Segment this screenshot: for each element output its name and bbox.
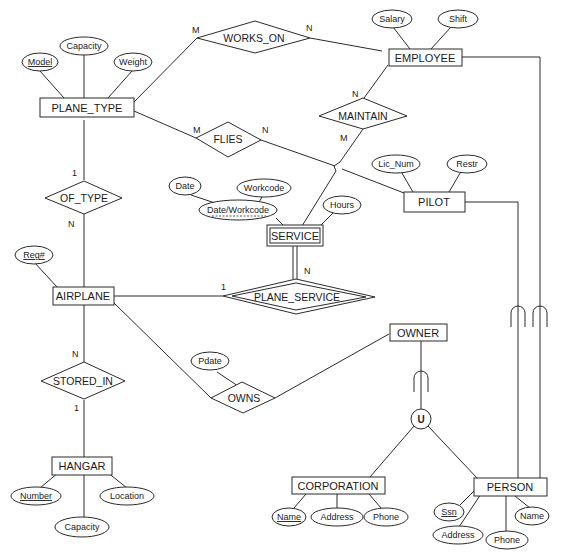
cardinality-label: M [340, 133, 348, 143]
entity-hangar[interactable]: HANGAR [52, 457, 112, 475]
attribute-label: Workcode [244, 183, 284, 193]
attribute-restr[interactable]: Restr [447, 155, 487, 173]
relationship-label: OWNS [228, 392, 261, 404]
relationship-owns[interactable]: OWNS [211, 382, 275, 413]
attribute-hours[interactable]: Hours [323, 196, 361, 214]
attribute-label: Restr [456, 159, 478, 169]
attribute-label: Reg# [23, 250, 45, 260]
attribute-label: Phone [494, 535, 520, 545]
er-diagram: PLANE_TYPE EMPLOYEE PILOT SERVICE AIRPLA… [0, 0, 561, 557]
entity-label: PILOT [418, 196, 450, 208]
cardinality-label: M [193, 125, 201, 135]
entity-label: AIRPLANE [56, 290, 110, 302]
entity-airplane[interactable]: AIRPLANE [53, 287, 114, 305]
attribute-label: Phone [373, 512, 399, 522]
attribute-label: Weight [119, 57, 147, 67]
attribute-person-phone[interactable]: Phone [486, 531, 528, 549]
entity-label: CORPORATION [297, 480, 378, 492]
relationship-label: STORED_IN [53, 375, 113, 387]
relationship-flies[interactable]: FLIES [196, 122, 261, 157]
union-category-circle[interactable]: U [411, 409, 431, 429]
attribute-label: Number [20, 491, 52, 501]
entity-label: HANGAR [58, 460, 105, 472]
union-label: U [417, 414, 424, 425]
attribute-label: Address [441, 530, 475, 540]
attribute-shift[interactable]: Shift [438, 10, 478, 28]
attribute-date-workcode-partial-key[interactable]: Date/Workcode [199, 200, 277, 220]
relationship-plane-service-identifying[interactable]: PLANE_SERVICE [223, 279, 375, 314]
attribute-hangar-capacity[interactable]: Capacity [55, 517, 109, 537]
cardinality-label: M [192, 25, 200, 35]
entity-label: SERVICE [271, 230, 319, 242]
relationship-works-on[interactable]: WORKS_ON [197, 21, 310, 53]
attribute-label: Date/Workcode [207, 205, 269, 215]
entity-label: PLANE_TYPE [52, 102, 123, 114]
entity-label: EMPLOYEE [395, 52, 456, 64]
cardinality-label: 1 [221, 282, 226, 292]
attribute-label: Hours [330, 200, 355, 210]
relationship-label: MAINTAIN [338, 110, 387, 122]
attribute-label: Location [110, 491, 144, 501]
entity-employee[interactable]: EMPLOYEE [389, 49, 462, 66]
entity-service-weak[interactable]: SERVICE [267, 225, 323, 246]
attribute-label: Capacity [66, 41, 102, 51]
attribute-label: Pdate [198, 356, 222, 366]
attribute-date[interactable]: Date [169, 177, 201, 195]
relationship-label: FLIES [213, 133, 242, 145]
entity-corporation[interactable]: CORPORATION [292, 477, 385, 494]
cardinality-label: 1 [74, 403, 79, 413]
attribute-hangar-number-key[interactable]: Number [11, 487, 61, 505]
attribute-corporation-name-key[interactable]: Name [272, 508, 306, 526]
entity-pilot[interactable]: PILOT [404, 192, 465, 212]
attribute-person-name[interactable]: Name [515, 507, 549, 525]
attribute-label: Model [28, 57, 53, 67]
relationship-stored-in[interactable]: STORED_IN [41, 362, 125, 399]
entity-owner[interactable]: OWNER [390, 324, 447, 341]
cardinality-label: N [68, 219, 75, 229]
relationship-maintain[interactable]: MAINTAIN [319, 98, 407, 129]
attribute-label: Name [277, 512, 301, 522]
entity-plane-type[interactable]: PLANE_TYPE [40, 98, 134, 117]
relationship-label: PLANE_SERVICE [254, 291, 340, 303]
attribute-pdate[interactable]: Pdate [191, 352, 229, 370]
attribute-lic-num[interactable]: Lic_Num [372, 155, 420, 173]
attribute-corporation-phone[interactable]: Phone [364, 508, 408, 526]
relationship-label: WORKS_ON [223, 32, 284, 44]
cardinality-label: N [306, 23, 313, 33]
cardinality-label: N [72, 349, 79, 359]
attribute-person-address[interactable]: Address [433, 526, 483, 544]
entity-person[interactable]: PERSON [474, 478, 547, 496]
relationship-of-type[interactable]: OF_TYPE [45, 181, 122, 214]
attribute-label: Shift [449, 14, 468, 24]
attribute-corporation-address[interactable]: Address [311, 508, 363, 526]
attribute-label: Lic_Num [378, 159, 414, 169]
attribute-label: Ssn [441, 507, 457, 517]
attribute-label: Capacity [64, 522, 100, 532]
attribute-capacity[interactable]: Capacity [60, 37, 108, 55]
attribute-person-ssn-key[interactable]: Ssn [434, 503, 464, 521]
attribute-weight[interactable]: Weight [114, 53, 152, 71]
relationship-label: OF_TYPE [60, 192, 108, 204]
entity-label: OWNER [397, 327, 439, 339]
entity-label: PERSON [487, 481, 534, 493]
attribute-label: Name [520, 511, 544, 521]
cardinality-label: 1 [72, 168, 77, 178]
cardinality-label: N [262, 125, 269, 135]
cardinality-label: N [304, 266, 311, 276]
attribute-label: Date [175, 181, 194, 191]
attribute-label: Address [320, 512, 354, 522]
attribute-workcode[interactable]: Workcode [237, 179, 291, 197]
attribute-salary[interactable]: Salary [372, 10, 412, 28]
attribute-model-key[interactable]: Model [22, 53, 58, 71]
attribute-reg-key[interactable]: Reg# [15, 246, 53, 264]
cardinality-label: N [352, 89, 359, 99]
attribute-hangar-location[interactable]: Location [100, 487, 154, 505]
attribute-label: Salary [379, 14, 405, 24]
